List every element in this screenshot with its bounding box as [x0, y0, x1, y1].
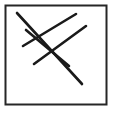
- figure-root: [0, 0, 113, 113]
- lattice-diagram-canvas: [0, 0, 113, 113]
